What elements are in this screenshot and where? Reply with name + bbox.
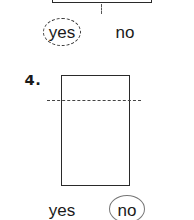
fold-line-dashed [47, 100, 141, 101]
shape-rectangle [61, 75, 130, 186]
option-yes[interactable]: yes [49, 202, 75, 219]
previous-option-yes[interactable]: yes [49, 24, 75, 41]
option-no[interactable]: no [118, 202, 137, 219]
previous-shape-rectangle [52, 0, 152, 3]
problem-number: 4. [25, 72, 42, 88]
previous-fold-line [101, 4, 102, 14]
previous-option-no[interactable]: no [116, 24, 135, 41]
